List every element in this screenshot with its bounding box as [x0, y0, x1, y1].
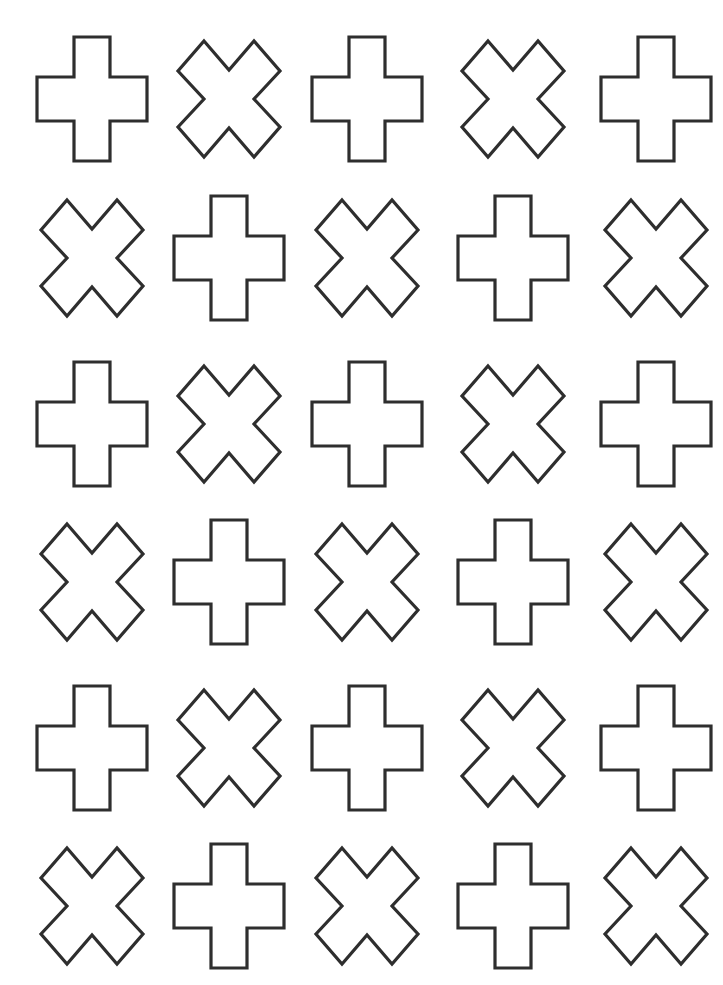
x-outline-icon — [32, 193, 152, 323]
plus-outline-icon — [453, 193, 573, 323]
plus-outline-icon — [453, 841, 573, 971]
shape-pattern-grid — [0, 0, 723, 985]
x-outline-icon — [596, 841, 716, 971]
x-outline-icon — [307, 193, 427, 323]
plus-outline-icon — [596, 34, 716, 164]
x-outline-icon — [169, 34, 289, 164]
x-outline-icon — [453, 34, 573, 164]
plus-outline-icon — [596, 683, 716, 813]
x-outline-icon — [169, 359, 289, 489]
x-outline-icon — [596, 517, 716, 647]
x-outline-icon — [307, 517, 427, 647]
x-outline-icon — [596, 193, 716, 323]
plus-outline-icon — [32, 683, 152, 813]
x-outline-icon — [32, 841, 152, 971]
x-outline-icon — [169, 683, 289, 813]
x-outline-icon — [453, 359, 573, 489]
plus-outline-icon — [32, 34, 152, 164]
x-outline-icon — [453, 683, 573, 813]
plus-outline-icon — [596, 359, 716, 489]
plus-outline-icon — [307, 34, 427, 164]
plus-outline-icon — [453, 517, 573, 647]
plus-outline-icon — [307, 683, 427, 813]
plus-outline-icon — [32, 359, 152, 489]
plus-outline-icon — [307, 359, 427, 489]
plus-outline-icon — [169, 841, 289, 971]
plus-outline-icon — [169, 517, 289, 647]
x-outline-icon — [32, 517, 152, 647]
x-outline-icon — [307, 841, 427, 971]
plus-outline-icon — [169, 193, 289, 323]
